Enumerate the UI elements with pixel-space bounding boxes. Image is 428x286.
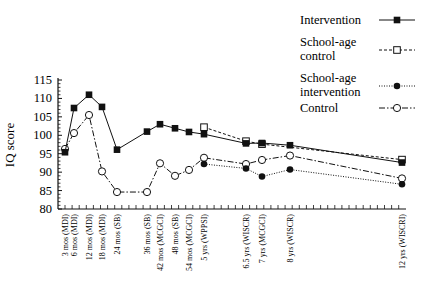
y-tick-label: 105 <box>33 110 52 124</box>
legend-label: Intervention <box>300 13 362 27</box>
series-intervention <box>62 91 406 165</box>
filled-square-marker <box>62 149 69 156</box>
filled-square-marker <box>394 17 401 24</box>
filled-circle-marker <box>399 181 406 188</box>
x-tick-label: 12 mos (MDI) <box>85 214 94 261</box>
x-tick-label: 12 yrs (WISCRI) <box>398 214 407 269</box>
legend-item-control: Control <box>300 101 415 115</box>
open-circle-marker <box>171 172 178 179</box>
open-circle-marker <box>398 175 405 182</box>
series-control <box>61 111 405 195</box>
series-line <box>204 164 402 184</box>
filled-square-marker <box>144 128 151 135</box>
x-tick-label: 36 mos (SB) <box>143 214 152 255</box>
series-school-age-intervention <box>201 161 406 188</box>
open-circle-marker <box>98 168 105 175</box>
filled-square-marker <box>86 91 93 98</box>
y-tick-label: 85 <box>40 184 53 198</box>
y-axis-title: IQ score <box>2 123 17 168</box>
x-tick-label: 48 mos (SB) <box>171 214 180 255</box>
open-square-marker <box>201 124 208 131</box>
open-circle-marker <box>393 104 400 111</box>
y-tick-label: 115 <box>34 73 52 87</box>
legend-label: Control <box>300 101 339 115</box>
filled-square-marker <box>287 142 294 149</box>
filled-circle-marker <box>201 161 208 168</box>
filled-square-marker <box>71 105 78 112</box>
filled-circle-marker <box>243 165 250 172</box>
x-tick-label: 3 mos (MDI) <box>61 214 70 257</box>
legend-item-school-age-intervention: School-ageintervention <box>300 71 415 99</box>
x-tick-label: 24 mos (SB) <box>113 214 122 255</box>
series-school-age-control <box>201 124 406 163</box>
x-tick-label: 6.5 yrs (WISCR) <box>242 214 251 269</box>
open-circle-marker <box>286 152 293 159</box>
legend-item-school-age-control: School-agecontrol <box>300 35 415 63</box>
open-circle-marker <box>143 188 150 195</box>
x-tick-label: 7 yrs (MCGCI) <box>258 214 267 264</box>
x-tick-label: 42 mos (MCGCI) <box>156 214 165 271</box>
filled-square-marker <box>243 140 250 147</box>
filled-circle-marker <box>394 83 401 90</box>
x-tick-label: 5 yrs (WPPSI) <box>200 214 209 261</box>
open-square-marker <box>394 47 401 54</box>
open-circle-marker <box>113 188 120 195</box>
filled-square-marker <box>399 159 406 166</box>
x-tick-label: 6 mos (MDI) <box>70 214 79 257</box>
legend: InterventionSchool-agecontrolSchool-agei… <box>300 13 415 115</box>
y-tick-label: 100 <box>33 128 52 142</box>
x-tick-label: 8 yrs (WISCR) <box>286 214 295 263</box>
open-circle-marker <box>70 129 77 136</box>
open-circle-marker <box>258 156 265 163</box>
legend-label: School-age <box>300 71 357 85</box>
iq-score-line-chart: 80859095100105110115IQ score3 mos (MDI)6… <box>0 0 428 286</box>
x-tick-label: 54 mos (MCGCI) <box>185 214 194 271</box>
filled-square-marker <box>157 121 164 128</box>
filled-square-marker <box>201 131 208 138</box>
filled-circle-marker <box>287 166 294 173</box>
y-tick-label: 95 <box>40 147 53 161</box>
filled-square-marker <box>114 146 121 153</box>
legend-item-intervention: Intervention <box>300 13 415 27</box>
y-tick-label: 80 <box>40 202 53 216</box>
open-circle-marker <box>156 160 163 167</box>
y-tick-label: 90 <box>40 165 53 179</box>
legend-label: intervention <box>300 85 361 99</box>
filled-square-marker <box>172 125 179 132</box>
legend-label: School-age <box>300 35 357 49</box>
filled-square-marker <box>186 129 193 136</box>
legend-label: control <box>300 49 336 63</box>
filled-square-marker <box>99 104 106 111</box>
open-circle-marker <box>85 111 92 118</box>
filled-circle-marker <box>259 173 266 180</box>
x-tick-label: 18 mos (MDI) <box>98 214 107 261</box>
open-circle-marker <box>185 166 192 173</box>
series-line <box>204 127 402 159</box>
open-circle-marker <box>200 154 207 161</box>
filled-square-marker <box>259 140 266 147</box>
y-tick-label: 110 <box>34 91 52 105</box>
